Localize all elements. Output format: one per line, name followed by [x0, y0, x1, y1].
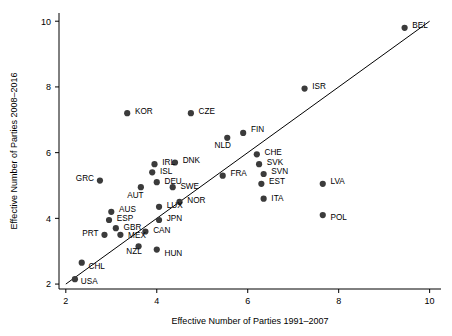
data-point-label: NZL — [126, 247, 142, 256]
data-point-marker — [124, 110, 130, 116]
x-tick-label: 10 — [425, 296, 435, 306]
data-point-marker — [320, 212, 326, 218]
data-point: DEU — [154, 177, 182, 186]
data-point-marker — [220, 173, 226, 179]
data-point-label: AUS — [119, 205, 136, 214]
y-tick-label: 4 — [46, 214, 51, 224]
data-point-label: HUN — [165, 249, 183, 258]
data-point: SVK — [256, 158, 284, 168]
data-point-label: AUT — [127, 191, 143, 200]
data-point-marker — [188, 110, 194, 116]
data-point: CHL — [79, 260, 106, 271]
data-point: GBR — [113, 223, 142, 232]
data-point-marker — [79, 260, 85, 266]
y-tick-label: 2 — [46, 279, 51, 289]
data-point-label: USA — [81, 277, 98, 286]
data-point-marker — [117, 232, 123, 238]
data-point-label: LVA — [330, 177, 345, 186]
y-axis-title: Effective Number of Parties 2008–2016 — [9, 73, 19, 230]
data-point-marker — [254, 151, 260, 157]
data-point-label: POL — [330, 213, 347, 222]
data-point-label: KOR — [135, 107, 153, 116]
data-point: MEX — [117, 231, 146, 240]
y-tick-label: 8 — [46, 82, 51, 92]
data-point-label: CAN — [153, 226, 170, 235]
data-point: LUX — [156, 201, 183, 210]
data-point-marker — [106, 217, 112, 223]
data-point-marker — [97, 177, 103, 183]
data-point: EST — [258, 177, 285, 187]
data-point-marker — [301, 85, 307, 91]
x-tick-label: 6 — [245, 296, 250, 306]
data-point: NLD — [215, 135, 231, 151]
data-point-label: MEX — [128, 231, 146, 240]
data-point-label: CZE — [199, 107, 216, 116]
x-tick-label: 4 — [154, 296, 159, 306]
data-point-label: ISR — [312, 82, 326, 91]
x-tick-label: 2 — [63, 296, 68, 306]
y-tick-label: 10 — [41, 17, 51, 27]
data-point-marker — [156, 217, 162, 223]
data-point: CZE — [188, 107, 216, 117]
data-point: ITA — [261, 194, 284, 203]
data-point-marker — [151, 161, 157, 167]
data-point-label: LUX — [167, 201, 183, 210]
data-point-label: DNK — [183, 156, 201, 165]
data-point-label: SVN — [271, 167, 288, 176]
data-point: FIN — [240, 125, 264, 136]
data-point: GRC — [76, 174, 103, 184]
data-point-label: FRA — [230, 169, 247, 178]
data-point-marker — [113, 225, 119, 231]
data-point-label: SVK — [267, 158, 284, 167]
data-point-label: BEL — [412, 21, 428, 30]
data-point: CAN — [142, 226, 170, 235]
data-point-marker — [108, 209, 114, 215]
y-tick-label: 6 — [46, 148, 51, 158]
data-point-marker — [320, 181, 326, 187]
data-point: PRT — [82, 229, 107, 238]
data-point: AUT — [127, 184, 144, 200]
x-tick-label: 8 — [336, 296, 341, 306]
data-point-label: CHL — [89, 262, 106, 271]
data-point-label: FIN — [251, 125, 264, 134]
data-point-marker — [149, 169, 155, 175]
data-point-marker — [138, 184, 144, 190]
data-point: ISR — [301, 82, 326, 92]
data-point-marker — [402, 25, 408, 31]
x-axis-title: Effective Number of Parties 1991–2007 — [172, 316, 329, 326]
data-point: SVN — [261, 167, 289, 177]
data-point: CHE — [254, 148, 283, 158]
data-point: KOR — [124, 107, 153, 117]
data-point-marker — [170, 184, 176, 190]
chart-canvas: 246810246810Effective Number of Parties … — [0, 0, 452, 336]
data-point-marker — [101, 232, 107, 238]
data-point-marker — [156, 204, 162, 210]
data-point-label: ISL — [160, 167, 173, 176]
data-point: BEL — [402, 21, 429, 31]
data-point: USA — [72, 276, 98, 286]
data-point-label: GBR — [124, 223, 142, 232]
data-point-marker — [261, 171, 267, 177]
scatter-chart: 246810246810Effective Number of Parties … — [0, 0, 452, 336]
data-point-marker — [154, 179, 160, 185]
data-point-label: NLD — [215, 141, 231, 150]
data-point-marker — [261, 196, 267, 202]
data-point: ISL — [149, 167, 173, 176]
data-point: LVA — [320, 177, 346, 187]
data-point-marker — [72, 276, 78, 282]
data-point: DNK — [172, 156, 201, 166]
data-point-marker — [224, 135, 230, 141]
data-point-label: PRT — [82, 229, 98, 238]
data-point: NZL — [126, 243, 142, 256]
data-point: HUN — [154, 246, 183, 257]
reference-line — [66, 21, 430, 284]
data-point-label: GRC — [76, 174, 94, 183]
data-point-label: ITA — [271, 194, 284, 203]
data-point-label: JPN — [167, 214, 183, 223]
data-point-marker — [240, 130, 246, 136]
data-point-label: IRL — [162, 158, 175, 167]
data-point-marker — [258, 181, 264, 187]
data-point-marker — [154, 246, 160, 252]
data-point-marker — [256, 161, 262, 167]
data-point-label: SWE — [180, 182, 199, 191]
